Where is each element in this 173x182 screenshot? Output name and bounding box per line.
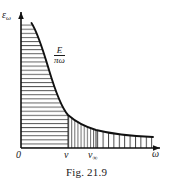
curve-formula-denominator: πω [54, 56, 65, 65]
origin-label: 0 [16, 150, 21, 160]
curve-formula-label: E πω [54, 46, 65, 66]
figure-container: εω ω 0 ν ν∞ E πω Fig. 21.9 [0, 0, 173, 182]
tick-label-nu-infinity-subscript: ∞ [92, 154, 97, 162]
tick-label-nu-infinity: ν∞ [88, 150, 97, 162]
y-axis-subscript: ω [6, 14, 11, 22]
figure-caption: Fig. 21.9 [0, 166, 173, 178]
region-nu-to-nu-infinity [68, 115, 96, 148]
y-axis-label: εω [2, 10, 11, 22]
y-axis-arrowhead [18, 12, 24, 19]
region-below-nu [21, 23, 68, 148]
tick-label-nu: ν [64, 150, 68, 160]
x-axis-label: ω [152, 149, 159, 159]
plot-canvas [0, 0, 173, 165]
